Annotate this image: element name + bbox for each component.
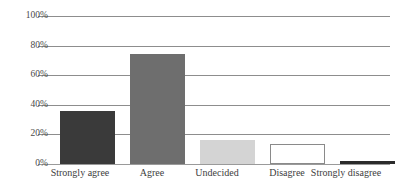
- axis-baseline: [38, 164, 390, 165]
- bar-slot-agree: [130, 16, 185, 164]
- bar-chart: 100% 80% 60% 40% 20% 0% Strongly agree A…: [0, 0, 397, 188]
- bar-slot-strongly-agree: [60, 16, 115, 164]
- bar-undecided[interactable]: [200, 140, 255, 164]
- bar-disagree[interactable]: [270, 144, 325, 164]
- bar-slot-undecided: [200, 16, 255, 164]
- bar-strongly-agree[interactable]: [60, 111, 115, 164]
- bar-agree[interactable]: [130, 54, 185, 164]
- bar-slot-disagree: [270, 16, 325, 164]
- bar-strongly-disagree[interactable]: [340, 161, 395, 164]
- plot-area: [38, 16, 390, 164]
- bar-slot-strongly-disagree: [340, 16, 395, 164]
- x-label-strongly-disagree: Strongly disagree: [291, 167, 397, 178]
